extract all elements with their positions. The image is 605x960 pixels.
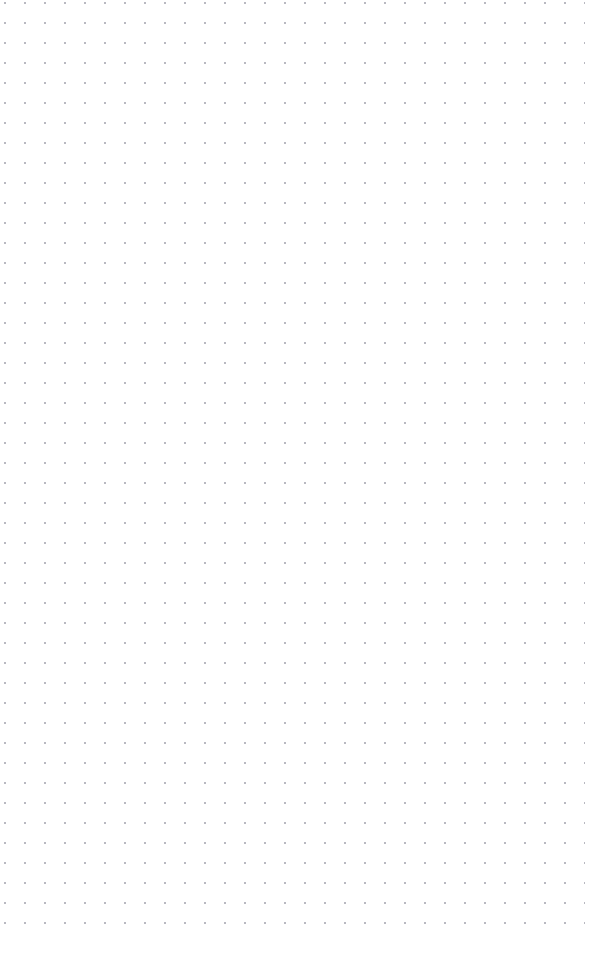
note-content-area[interactable] — [0, 0, 605, 960]
dot-grid-page — [0, 0, 605, 960]
